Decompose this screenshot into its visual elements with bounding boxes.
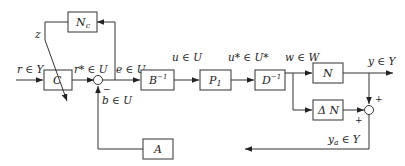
wire-w-to-delta-n [293, 73, 312, 110]
sign-plus-top: + [375, 94, 383, 104]
block-a-label: A [153, 143, 162, 156]
block-n-label: N [322, 67, 333, 80]
label-z: z [34, 28, 41, 40]
label-w: w ∈ W [285, 51, 320, 63]
label-b: b ∈ U [102, 94, 133, 106]
block-delta-n-label: Δ N [317, 104, 339, 117]
label-u-star: u* ∈ U* [228, 51, 269, 63]
block-diagram: r ∈ Y C r* ∈ U − e ∈ U Nc z B−1 u ∈ U P1… [0, 0, 405, 166]
label-r-star: r* ∈ U [74, 63, 109, 75]
label-u: u ∈ U [172, 51, 203, 63]
sign-plus-left: + [355, 115, 363, 125]
label-y-a: ya ∈ Y [327, 133, 361, 147]
label-y: y ∈ Y [367, 55, 396, 67]
label-r: r ∈ Y [17, 63, 44, 75]
summing-junction-1 [94, 76, 103, 85]
summing-junction-2 [365, 106, 374, 115]
sign-minus: − [103, 84, 111, 94]
